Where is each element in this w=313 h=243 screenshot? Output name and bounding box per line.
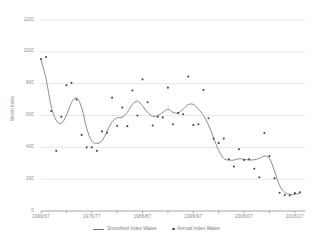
data-point	[86, 146, 88, 148]
legend-dot-swatch-icon	[172, 228, 174, 230]
data-point	[279, 192, 281, 194]
data-point	[157, 116, 159, 118]
y-tick-label: 400	[12, 145, 34, 150]
data-point	[55, 150, 57, 152]
data-point	[101, 130, 103, 132]
data-point	[141, 78, 143, 80]
legend-item-annual: Annual Index Wales	[172, 227, 219, 232]
x-tick-label: 2016/17	[286, 215, 304, 220]
data-point	[172, 123, 174, 125]
data-point	[40, 58, 42, 60]
data-point	[167, 87, 169, 89]
y-tick-label: 800	[12, 81, 34, 86]
data-point	[218, 142, 220, 144]
data-point	[233, 165, 235, 167]
data-point	[75, 99, 77, 101]
data-point	[177, 112, 179, 114]
data-point	[121, 106, 123, 108]
legend-item-smoothed: Smoothed Index Wales	[93, 227, 156, 232]
data-point	[126, 125, 128, 127]
data-point	[294, 192, 296, 194]
y-tick-label: 200	[12, 177, 34, 182]
data-point	[213, 138, 215, 140]
data-point	[284, 194, 286, 196]
data-point	[202, 89, 204, 91]
data-point	[289, 194, 291, 196]
data-point	[258, 176, 260, 178]
data-point	[263, 132, 265, 134]
data-point	[81, 134, 83, 136]
legend-line-swatch-icon	[93, 229, 104, 230]
annual-index-wales-points	[40, 56, 301, 197]
data-point	[116, 125, 118, 127]
data-point	[111, 97, 113, 99]
y-tick-label: 600	[12, 113, 34, 118]
x-tick-label: 1996/97	[184, 215, 202, 220]
data-point	[207, 117, 209, 119]
data-point	[268, 155, 270, 157]
legend-label-smoothed: Smoothed Index Wales	[107, 227, 156, 232]
smoothed-series-path	[41, 60, 300, 195]
data-point	[60, 116, 62, 118]
data-point	[91, 146, 93, 148]
data-point	[228, 158, 230, 160]
y-tick-label: 1200	[12, 18, 34, 23]
data-point	[182, 113, 184, 115]
data-point	[70, 82, 72, 84]
smoothed-index-wales-line	[41, 60, 300, 195]
data-point	[299, 191, 301, 193]
legend-label-annual: Annual Index Wales	[177, 227, 220, 232]
x-tick-label: 2006/07	[235, 215, 253, 220]
data-point	[162, 116, 164, 118]
data-point	[131, 89, 133, 91]
data-point	[273, 177, 275, 179]
data-point	[147, 101, 149, 103]
data-point	[238, 148, 240, 150]
data-point	[65, 84, 67, 86]
data-point	[50, 110, 52, 112]
data-point	[192, 124, 194, 126]
data-point	[197, 123, 199, 125]
chart-container: 120010008006004002000 1966/671976/771986…	[0, 0, 313, 243]
chart-plot-area	[0, 0, 313, 243]
y-tick-label: 1000	[12, 49, 34, 54]
data-point	[96, 150, 98, 152]
x-tick-label: 1986/87	[134, 215, 152, 220]
data-point	[136, 114, 138, 116]
data-point	[152, 124, 154, 126]
y-tick-label: 0	[12, 209, 34, 214]
x-tick-label: 1966/67	[32, 215, 50, 220]
data-point	[106, 132, 108, 134]
data-point	[45, 56, 47, 58]
data-point	[223, 138, 225, 140]
y-axis-title: Welsh Index	[11, 85, 16, 131]
gridlines	[41, 20, 305, 211]
data-point	[248, 158, 250, 160]
data-point	[243, 159, 245, 161]
data-point	[253, 168, 255, 170]
x-tick-label: 1976/77	[83, 215, 101, 220]
data-point	[187, 75, 189, 77]
chart-legend: Smoothed Index Wales Annual Index Wales	[0, 227, 313, 232]
